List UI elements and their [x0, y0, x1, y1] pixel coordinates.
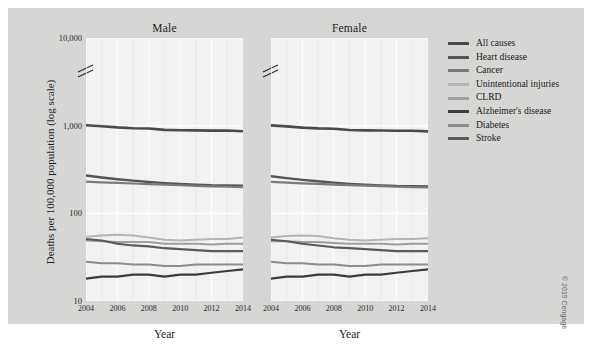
- x-axis-tick: 2006: [109, 304, 125, 313]
- plot-area-male: [86, 38, 243, 301]
- legend-label: Diabetes: [476, 121, 509, 131]
- legend-swatch: [448, 69, 469, 72]
- x-axis-label-male: Year: [86, 328, 243, 340]
- legend: All causesHeart diseaseCancerUnintention…: [448, 37, 588, 146]
- x-axis-tick: 2014: [420, 304, 436, 313]
- legend-swatch: [448, 56, 469, 59]
- legend-label: Unintentional injuries: [476, 80, 559, 90]
- x-axis-tick: 2014: [235, 304, 251, 313]
- legend-label: Stroke: [476, 134, 501, 144]
- x-axis-tick: 2008: [141, 304, 157, 313]
- legend-item[interactable]: Diabetes: [448, 119, 588, 133]
- figure-root: Deaths per 100,000 population (log scale…: [0, 0, 592, 347]
- legend-swatch: [448, 97, 469, 100]
- x-axis-tick: 2004: [78, 304, 94, 313]
- legend-item[interactable]: All causes: [448, 37, 588, 51]
- y-axis-tick: 1,000: [36, 122, 82, 131]
- panel-title-female: Female: [271, 22, 428, 34]
- plot-area-female: [271, 38, 428, 301]
- copyright-notice: © 2019 Cengage: [561, 276, 568, 329]
- legend-item[interactable]: Unintentional injuries: [448, 78, 588, 92]
- figure-frame: Deaths per 100,000 population (log scale…: [8, 8, 584, 324]
- y-axis-tick: 10: [36, 297, 82, 306]
- legend-item[interactable]: Stroke: [448, 132, 588, 146]
- x-axis-tick: 2004: [263, 304, 279, 313]
- legend-item[interactable]: Alzheimer's disease: [448, 105, 588, 119]
- legend-label: Cancer: [476, 66, 503, 76]
- legend-swatch: [448, 42, 469, 45]
- x-axis-tick: 2012: [204, 304, 220, 313]
- x-axis-tick: 2006: [294, 304, 310, 313]
- legend-swatch: [448, 124, 469, 127]
- legend-swatch: [448, 137, 469, 140]
- x-axis-tick: 2010: [172, 304, 188, 313]
- panel-title-male: Male: [86, 22, 243, 34]
- legend-swatch: [448, 110, 469, 113]
- x-axis-tick: 2012: [389, 304, 405, 313]
- legend-label: All causes: [476, 39, 515, 49]
- x-axis-label-female: Year: [271, 328, 428, 340]
- legend-label: Heart disease: [476, 53, 527, 63]
- legend-item[interactable]: Heart disease: [448, 51, 588, 65]
- y-axis-tick-group: 101001,00010,000: [34, 38, 82, 301]
- legend-item[interactable]: Cancer: [448, 64, 588, 78]
- y-axis-tick: 100: [36, 209, 82, 218]
- legend-item[interactable]: CLRD: [448, 91, 588, 105]
- x-axis-tick: 2010: [357, 304, 373, 313]
- x-axis-tick: 2008: [326, 304, 342, 313]
- legend-swatch: [448, 83, 469, 86]
- y-axis-tick: 10,000: [36, 34, 82, 43]
- legend-label: CLRD: [476, 93, 501, 103]
- legend-label: Alzheimer's disease: [476, 107, 551, 117]
